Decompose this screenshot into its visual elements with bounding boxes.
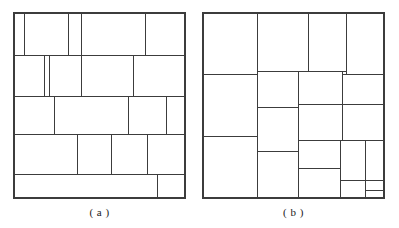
packed-rectangle — [203, 13, 257, 74]
packed-rectangle — [133, 55, 185, 96]
packed-rectangle — [342, 74, 384, 104]
packed-rectangle — [68, 13, 81, 55]
packed-rectangle — [257, 151, 298, 198]
packed-rectangle — [340, 140, 365, 180]
packed-rectangle — [365, 140, 384, 180]
packed-rectangle — [14, 13, 24, 55]
packed-rectangle — [145, 13, 185, 55]
packed-rectangle — [298, 140, 340, 168]
packed-rectangle — [14, 134, 77, 174]
panel-a-caption: ( a ) — [14, 206, 185, 218]
packed-rectangle — [257, 71, 298, 107]
packed-rectangle — [346, 13, 384, 74]
packed-rectangle — [14, 55, 44, 96]
packed-rectangle — [298, 104, 342, 140]
packed-rectangle — [203, 74, 257, 136]
packed-rectangle — [24, 13, 68, 55]
panel-a — [13, 12, 186, 199]
packed-rectangle — [342, 104, 384, 140]
packed-rectangle — [44, 55, 49, 96]
panel-a-packing-diagram — [13, 12, 186, 199]
packed-rectangle — [147, 134, 185, 174]
packed-rectangle — [157, 174, 185, 198]
packed-rectangle — [298, 168, 340, 198]
figure-root: ( a ) ( b ) — [0, 0, 399, 228]
packed-rectangle — [365, 180, 384, 190]
packed-rectangle — [203, 136, 257, 198]
packed-rectangle — [81, 55, 133, 96]
packed-rectangle — [298, 71, 342, 104]
packed-rectangle — [308, 13, 346, 71]
packed-rectangle — [365, 190, 384, 198]
packed-rectangle — [49, 55, 81, 96]
panel-b — [202, 12, 385, 199]
packed-rectangle — [111, 134, 147, 174]
packed-rectangle — [77, 134, 111, 174]
packed-rectangle — [54, 96, 128, 134]
packed-rectangle — [257, 107, 298, 151]
packed-rectangle — [128, 96, 166, 134]
packed-rectangle — [257, 13, 308, 71]
panel-b-caption: ( b ) — [203, 206, 384, 218]
panel-b-packing-diagram — [202, 12, 385, 199]
packed-rectangle — [14, 96, 54, 134]
packed-rectangle — [340, 180, 365, 198]
packed-rectangle — [81, 13, 145, 55]
packed-rectangle — [166, 96, 185, 134]
packed-rectangle — [14, 174, 157, 198]
